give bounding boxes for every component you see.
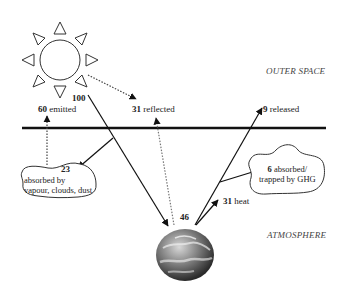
label-emitted: 60 emitted	[38, 104, 76, 114]
label-incoming: 100	[72, 93, 86, 103]
arrow-sun-to-reflected	[88, 75, 136, 99]
absorbed-clouds-line1: absorbed by	[24, 175, 92, 185]
label-absorbed-clouds-text: absorbed by vapour, clouds, dust	[24, 175, 92, 195]
region-atmosphere: ATMOSPHERE	[267, 230, 326, 240]
absorbed-clouds-line2: vapour, clouds, dust	[24, 185, 92, 195]
absorbed-ghg-value: 6	[268, 164, 272, 174]
region-outer-space: OUTER SPACE	[266, 66, 325, 76]
emitted-text: emitted	[49, 104, 76, 114]
arrow-absorbed-clouds	[78, 138, 113, 168]
absorbed-ghg-line1: absorbed/	[274, 164, 307, 174]
incoming-value: 100	[72, 93, 86, 103]
label-absorbed-clouds-value: 23	[61, 164, 70, 174]
emitted-value: 60	[38, 104, 47, 114]
released-text: released	[270, 104, 299, 114]
reflected-text: reflected	[143, 104, 174, 114]
heat-text: heat	[234, 196, 249, 206]
absorbed-ghg-line2: trapped by GHG	[259, 174, 316, 184]
surface-value: 46	[180, 212, 189, 222]
label-surface: 46	[180, 212, 189, 222]
heat-value: 31	[223, 196, 232, 206]
arrow-reflected	[156, 118, 174, 225]
label-reflected: 31 reflected	[132, 104, 175, 114]
energy-diagram	[0, 0, 343, 289]
label-heat: 31 heat	[223, 196, 249, 206]
earth-globe-icon	[156, 229, 214, 281]
absorbed-clouds-value: 23	[61, 164, 70, 174]
released-value: 9	[263, 104, 268, 114]
label-absorbed-ghg: 6 absorbed/ trapped by GHG	[259, 164, 316, 184]
arrow-incoming	[88, 95, 168, 226]
sun-icon	[22, 22, 98, 98]
reflected-value: 31	[132, 104, 141, 114]
label-released: 9 released	[263, 104, 299, 114]
